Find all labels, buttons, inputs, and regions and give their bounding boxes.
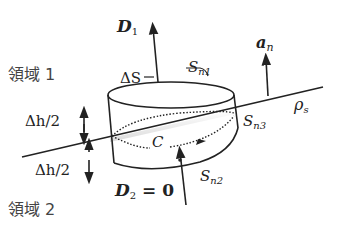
contour-arrow-icon <box>196 139 206 145</box>
deltaS-label: ΔS <box>120 69 141 87</box>
pillbox-diagram: 領域 1 領域 2 D1 an ΔS Sn1 ρs Sn3 C Sn2 D2 =… <box>0 0 341 225</box>
an-label: an <box>256 33 273 54</box>
rho-s-label: ρs <box>293 95 309 115</box>
region1-label: 領域 1 <box>8 65 55 84</box>
dh-upper-label: Δh/2 <box>25 112 60 130</box>
an-arrow-icon <box>266 59 268 96</box>
d1-label: D1 <box>116 16 138 37</box>
dh-arrows <box>84 112 89 178</box>
d1-arrow-icon <box>153 28 158 82</box>
left-side <box>108 95 114 163</box>
dh-lower-label: Δh/2 <box>35 161 70 179</box>
sn3-label: Sn3 <box>243 112 266 131</box>
sn2-label: Sn2 <box>200 167 223 186</box>
region2-label: 領域 2 <box>8 200 55 219</box>
sn1-label: Sn1 <box>188 58 211 77</box>
d2-label: D2 = 0 <box>114 180 174 201</box>
c-label: C <box>152 133 164 151</box>
interface-surface <box>22 87 323 157</box>
